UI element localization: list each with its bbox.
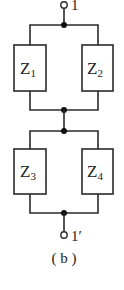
circuit-diagram: 1 Z1 Z2 Z3 Z4 1′ ( b ): [0, 0, 124, 290]
terminal-1-icon: [61, 2, 67, 8]
impedance-z3: Z3: [14, 149, 46, 194]
terminal-1prime-icon: [61, 232, 67, 238]
impedance-z1: Z1: [14, 45, 46, 91]
impedance-z2: Z2: [82, 45, 113, 91]
figure-caption: ( b ): [52, 250, 77, 267]
node-top-icon: [61, 22, 67, 28]
node-mid-lower-icon: [61, 128, 67, 134]
terminal-1-label: 1: [71, 0, 79, 13]
impedance-z4: Z4: [82, 149, 113, 194]
terminal-1prime-label: 1′: [71, 228, 82, 244]
